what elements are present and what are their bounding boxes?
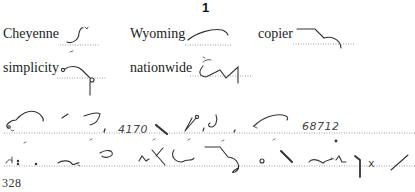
outline-wyoming [188, 30, 228, 40]
outline-copier [297, 29, 341, 48]
outline-nationwide [200, 66, 238, 83]
outline-passage-1 [7, 111, 44, 128]
shorthand-strokes [6, 27, 408, 177]
outline-cheyenne [67, 28, 83, 43]
writing-guidelines [4, 44, 415, 166]
outline-simplicity [65, 66, 90, 78]
shorthand-outlines [0, 0, 415, 192]
